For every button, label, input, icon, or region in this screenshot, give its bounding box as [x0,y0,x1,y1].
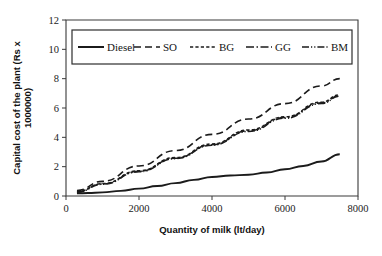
y-tick-label: 6 [54,103,59,114]
y-tick-label: 12 [49,15,60,26]
y-tick-label: 4 [54,132,60,143]
y-tick-label: 10 [49,44,60,55]
x-tick-label: 6000 [275,203,296,214]
y-axis-title-line2: 1000000) [22,88,33,128]
x-tick-label: 8000 [348,203,369,214]
chart-legend: DieselSOBGGGBM [72,30,352,64]
y-axis-title-line1: Capital cost of the plant (Rs x [11,41,22,175]
legend-label-so: SO [163,41,177,53]
legend-label-gg: GG [275,41,291,53]
x-tick-label: 2000 [129,203,150,214]
x-tick-label: 0 [63,203,68,214]
x-axis-title: Quantity of milk (lt/day) [159,224,265,235]
legend-label-bm: BM [331,41,348,53]
chart-container: Capital cost of the plant (Rs x 1000000)… [0,0,382,256]
y-tick-label: 0 [54,191,59,202]
y-tick-label: 2 [54,161,59,172]
legend-label-diesel: Diesel [107,41,135,53]
x-tick-label: 4000 [202,203,223,214]
y-tick-label: 8 [54,73,59,84]
legend-label-bg: BG [219,41,234,53]
line-chart: Capital cost of the plant (Rs x 1000000)… [0,0,382,256]
